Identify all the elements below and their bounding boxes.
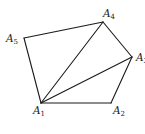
label-a4: A4 bbox=[102, 7, 116, 21]
side-a4-a5 bbox=[24, 22, 103, 38]
label-a5: A5 bbox=[5, 32, 18, 46]
diagonal-a1-a3 bbox=[41, 57, 132, 103]
label-a2: A2 bbox=[112, 104, 125, 118]
pentagon-diagram: A1 A2 A3 A4 A5 bbox=[0, 0, 145, 134]
label-a3: A3 bbox=[135, 51, 145, 65]
edges bbox=[24, 22, 132, 103]
side-a2-a3 bbox=[111, 57, 132, 103]
vertex-labels: A1 A2 A3 A4 A5 bbox=[5, 7, 145, 118]
side-a5-a1 bbox=[24, 38, 41, 103]
label-a1: A1 bbox=[32, 104, 45, 118]
side-a3-a4 bbox=[103, 22, 132, 57]
diagonal-a1-a4 bbox=[41, 22, 103, 103]
